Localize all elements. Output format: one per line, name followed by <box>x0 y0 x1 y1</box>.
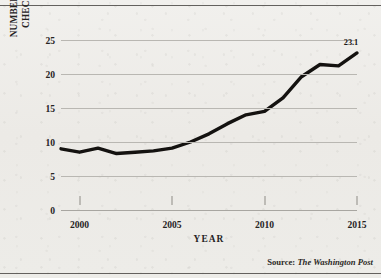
gridline-y-25 <box>61 40 357 41</box>
x-tick-2000 <box>79 196 80 205</box>
y-tick-label-5: 5 <box>33 171 55 182</box>
x-tick-label-2000: 2000 <box>70 219 89 230</box>
y-tick-label-15: 15 <box>33 103 55 114</box>
gridline-y-0 <box>61 210 357 211</box>
x-tick-2010 <box>264 196 265 205</box>
top-divider <box>0 5 381 6</box>
y-tick-label-0: 0 <box>33 205 55 216</box>
y-axis-title-line-1: NUMBER OF BACKGROUND <box>9 0 20 37</box>
y-tick-label-10: 10 <box>33 137 55 148</box>
plot-area: 0510152025200020052010201523.1 <box>61 40 357 210</box>
source-prefix: Source: <box>267 257 295 267</box>
gridline-y-5 <box>61 176 357 177</box>
bottom-divider <box>0 273 381 274</box>
source-publication: The Washington Post <box>297 257 373 267</box>
y-tick-label-25: 25 <box>33 35 55 46</box>
source-caption: Source: The Washington Post <box>267 257 373 267</box>
gridline-y-10 <box>61 142 357 143</box>
x-tick-2005 <box>172 196 173 205</box>
chart-figure: NUMBER OF BACKGROUND CHECKS (IN MILLIONS… <box>0 0 381 278</box>
y-tick-label-20: 20 <box>33 69 55 80</box>
x-tick-label-2010: 2010 <box>255 219 274 230</box>
line-series <box>61 40 357 210</box>
x-tick-label-2005: 2005 <box>162 219 181 230</box>
x-axis-title: YEAR <box>61 234 357 244</box>
y-axis-title-line-2: CHECKS (IN MILLIONS) <box>21 0 32 28</box>
endpoint-value-label: 23.1 <box>344 38 358 47</box>
x-tick-2015 <box>357 196 358 205</box>
x-tick-label-2015: 2015 <box>347 219 366 230</box>
y-axis-title: NUMBER OF BACKGROUND CHECKS (IN MILLIONS… <box>4 0 36 60</box>
gridline-y-15 <box>61 108 357 109</box>
gridline-y-20 <box>61 74 357 75</box>
